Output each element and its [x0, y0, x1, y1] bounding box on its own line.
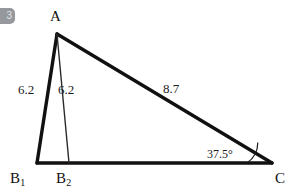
side-length-label-ab2: 6.2: [58, 82, 74, 98]
triangle-figure: [0, 0, 294, 196]
side-length-label-ab1: 6.2: [18, 82, 34, 98]
vertex-label-b1: B1: [10, 170, 25, 188]
vertex-label-a: A: [50, 8, 61, 25]
edge-a-b2: [57, 34, 69, 163]
diagram-canvas: 3 A B1 B2 C 6.2 6.2 8.7 37.5°: [0, 0, 294, 196]
vertex-label-b2: B2: [56, 170, 71, 188]
side-length-label-ac: 8.7: [163, 81, 179, 97]
vertex-label-c: C: [275, 170, 285, 187]
edge-a-b1: [37, 34, 57, 163]
angle-measure-label-c: 37.5°: [207, 147, 233, 162]
edge-a-c: [57, 34, 272, 163]
